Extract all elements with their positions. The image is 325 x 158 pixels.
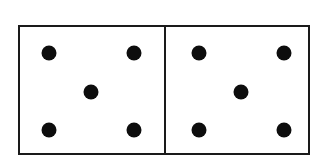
pip-dot	[127, 46, 142, 61]
domino-half-right	[166, 27, 310, 153]
pip-dot	[192, 46, 207, 61]
domino-tile	[18, 25, 310, 155]
pip-dot	[277, 46, 292, 61]
pip-dot	[234, 85, 249, 100]
pip-dot	[277, 123, 292, 138]
pip-dot	[192, 123, 207, 138]
pip-dot	[42, 123, 57, 138]
pip-dot	[84, 85, 99, 100]
pip-dot	[127, 123, 142, 138]
domino-half-left	[20, 27, 164, 153]
pip-dot	[42, 46, 57, 61]
